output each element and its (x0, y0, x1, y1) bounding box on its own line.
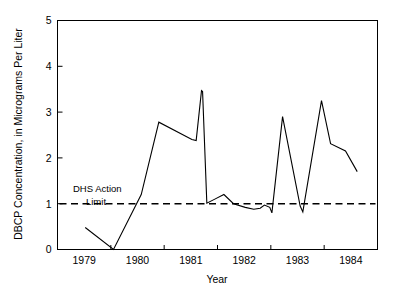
x-tick-label: 1983 (286, 254, 310, 266)
y-tick-label: 3 (46, 106, 52, 118)
dhs-action-limit-label-line2: Limit (86, 196, 106, 207)
chart-figure: 012345 197919801981198219831984 DHS Acti… (0, 0, 401, 296)
y-tick-label: 5 (46, 14, 52, 26)
x-tick-label: 1981 (179, 254, 203, 266)
y-tick-label: 4 (46, 60, 52, 72)
chart-background (0, 0, 401, 296)
x-tick-label: 1979 (72, 254, 96, 266)
y-tick-label: 2 (46, 152, 52, 164)
y-tick-label: 0 (46, 243, 52, 255)
x-axis-title: Year (206, 273, 228, 285)
y-tick-label: 1 (46, 198, 52, 210)
dbcp-concentration-line-chart: 012345 197919801981198219831984 DHS Acti… (0, 0, 401, 296)
x-tick-label: 1982 (232, 254, 256, 266)
x-tick-label: 1980 (126, 254, 150, 266)
y-axis-title: DBCP Concentration, in Micrograms Per Li… (12, 28, 24, 240)
dhs-action-limit-label-line1: DHS Action (73, 183, 122, 194)
x-tick-label: 1984 (339, 254, 363, 266)
